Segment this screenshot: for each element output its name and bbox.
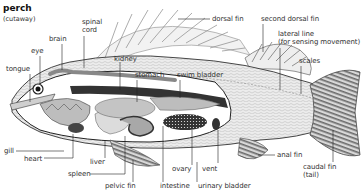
label-swim-bladder: swim bladder xyxy=(177,71,223,79)
perch-diagram: perch (cutaway) spinal cord brain eye to… xyxy=(0,0,364,192)
label-lateral-line-line1: lateral line xyxy=(278,30,360,38)
label-caudal-fin: caudal fin (tail) xyxy=(303,163,336,179)
label-ovary: ovary xyxy=(172,165,191,173)
label-urinary-bladder: urinary bladder xyxy=(198,182,250,190)
anal-fin-shape xyxy=(238,138,268,159)
label-intestine: intestine xyxy=(160,182,190,190)
label-brain: brain xyxy=(49,35,67,43)
label-gill: gill xyxy=(4,147,14,155)
label-tongue: tongue xyxy=(6,65,30,73)
diagram-subtitle: (cutaway) xyxy=(3,15,35,23)
label-eye: eye xyxy=(31,47,43,55)
label-lateral-line: lateral line (for sensing movement) xyxy=(278,30,360,46)
diagram-title: perch xyxy=(3,3,32,13)
caudal-fin-shape xyxy=(310,70,360,156)
label-liver: liver xyxy=(90,158,105,166)
label-caudal-fin-line1: caudal fin xyxy=(303,163,336,171)
label-spinal-cord-line1: spinal xyxy=(82,18,102,26)
label-scales: scales xyxy=(299,57,320,65)
label-spinal-cord-line2: cord xyxy=(82,26,102,34)
label-spinal-cord: spinal cord xyxy=(82,18,102,34)
stomach-shape xyxy=(95,98,155,118)
heart-shape xyxy=(68,123,84,133)
label-anal-fin: anal fin xyxy=(277,151,302,159)
label-heart: heart xyxy=(24,155,42,163)
label-dorsal-fin: dorsal fin xyxy=(212,15,244,23)
label-stomach: stomach xyxy=(135,71,164,79)
ovary-shape xyxy=(163,114,207,130)
label-spleen: spleen xyxy=(68,170,91,178)
label-caudal-fin-line2: (tail) xyxy=(303,171,336,179)
label-pelvic-fin: pelvic fin xyxy=(105,182,136,190)
label-second-dorsal-fin: second dorsal fin xyxy=(261,15,319,23)
label-lateral-line-line2: (for sensing movement) xyxy=(278,38,360,46)
label-kidney: kidney xyxy=(114,55,137,63)
label-vent: vent xyxy=(202,165,217,173)
